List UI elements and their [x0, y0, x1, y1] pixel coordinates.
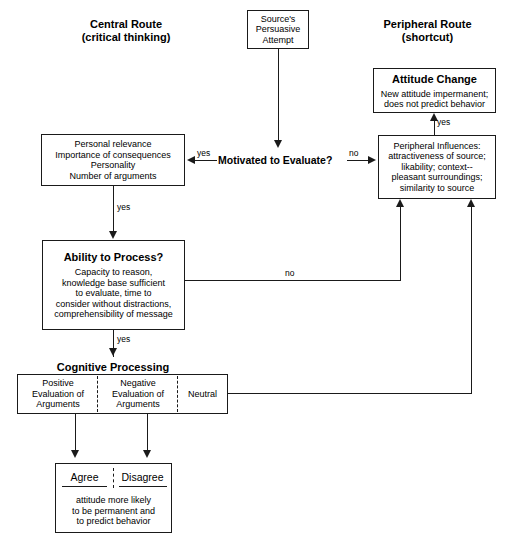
edge-positive-to-outcome-line: [75, 414, 76, 452]
cognitive-divider-2: [177, 376, 178, 412]
edge-negative-to-outcome-arrow: [143, 450, 151, 458]
edge-personal-to-ability-arrow: [109, 231, 117, 239]
node-attitude-change-body: New attitude impermanent; does not predi…: [381, 89, 489, 110]
node-attitude-change[interactable]: Attitude Change New attitude impermanent…: [373, 68, 496, 113]
node-source-persuasive-attempt[interactable]: Source's Persuasive Attempt: [247, 10, 309, 49]
edge-ability-no-v: [400, 207, 401, 281]
edge-source-to-motivated-line: [278, 49, 279, 141]
outcome-body: attitude more likely to be permanent and…: [57, 494, 170, 528]
cognitive-divider-1: [97, 376, 98, 412]
outcome-divider: [113, 468, 114, 488]
edge-neutral-v: [471, 207, 472, 394]
edge-neutral-h: [228, 393, 472, 394]
node-personal-factors[interactable]: Personal relevance Importance of consequ…: [41, 134, 185, 186]
node-peripheral-influences[interactable]: Peripheral Influences: attractiveness of…: [378, 135, 496, 199]
cognitive-cell-negative[interactable]: Negative Evaluation of Arguments: [99, 376, 177, 412]
node-ability-title: Ability to Process?: [64, 250, 164, 264]
edge-motivated-yes-arrow: [187, 156, 195, 164]
edge-label-motivated-no: no: [349, 149, 358, 158]
edge-ability-to-cognitive-arrow: [109, 348, 117, 356]
edge-label-peripheral-yes: yes: [437, 118, 450, 127]
edge-label-personal-yes: yes: [117, 203, 130, 212]
edge-ability-no-arrow: [396, 199, 404, 207]
edge-motivated-no-arrow: [368, 156, 376, 164]
edge-negative-to-outcome-line: [147, 414, 148, 452]
edge-label-ability-yes: yes: [117, 335, 130, 344]
node-attitude-change-title: Attitude Change: [392, 72, 477, 86]
node-ability-body: Capacity to reason, knowledge base suffi…: [54, 267, 173, 320]
edge-source-to-motivated-arrow: [274, 140, 282, 148]
edge-neutral-arrow: [467, 199, 475, 207]
node-ability-to-process[interactable]: Ability to Process? Capacity to reason, …: [42, 240, 185, 330]
outcome-underline-disagree: [119, 486, 167, 487]
cognitive-cell-neutral[interactable]: Neutral: [179, 376, 226, 412]
diagram-canvas: Central Route (critical thinking) Periph…: [0, 0, 517, 548]
edge-peripheral-to-attitude-line: [434, 121, 435, 135]
outcome-cell-disagree[interactable]: Disagree: [116, 471, 169, 483]
node-motivated-to-evaluate[interactable]: Motivated to Evaluate?: [218, 154, 332, 166]
cognitive-cell-positive[interactable]: Positive Evaluation of Arguments: [19, 376, 97, 412]
edge-motivated-yes-line: [195, 160, 217, 161]
edge-ability-no-h: [185, 280, 401, 281]
node-source-label: Source's Persuasive Attempt: [256, 14, 301, 46]
node-personal-factors-body: Personal relevance Importance of consequ…: [55, 139, 171, 181]
edge-positive-to-outcome-arrow: [71, 450, 79, 458]
edge-label-ability-no: no: [285, 269, 294, 278]
header-central-route: Central Route (critical thinking): [36, 18, 216, 44]
header-peripheral-route: Peripheral Route (shortcut): [345, 18, 510, 44]
node-peripheral-influences-body: Peripheral Influences: attractiveness of…: [388, 141, 486, 194]
outcome-cell-agree[interactable]: Agree: [58, 471, 111, 483]
outcome-underline-agree: [62, 486, 107, 487]
edge-label-motivated-yes: yes: [197, 149, 210, 158]
edge-motivated-no-line: [347, 160, 369, 161]
heading-cognitive-processing: Cognitive Processing: [38, 361, 188, 374]
edge-personal-to-ability-line: [113, 186, 114, 232]
